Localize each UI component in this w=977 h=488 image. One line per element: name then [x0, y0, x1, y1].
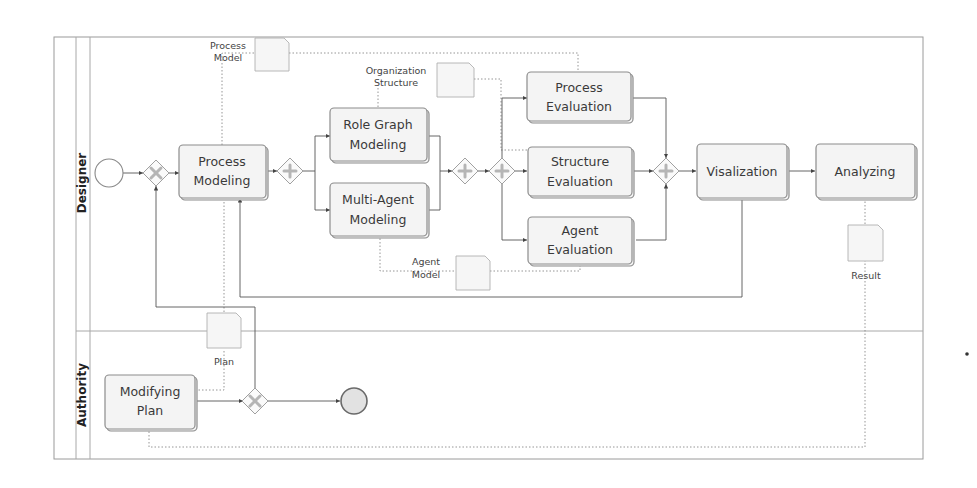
- data-label-line1: Organization: [366, 65, 427, 76]
- task-label-line1: Structure: [551, 154, 609, 169]
- document-icon: [437, 63, 474, 97]
- data-label-line2: Structure: [374, 77, 418, 88]
- task-structure-evaluation[interactable]: Structure Evaluation: [528, 147, 634, 198]
- end-event[interactable]: [341, 388, 367, 414]
- task-label-line1: Process: [198, 154, 245, 169]
- bpmn-diagram: Designer Authority: [0, 0, 977, 488]
- lane-label-authority: Authority: [75, 363, 89, 427]
- stray-dot: [965, 352, 969, 356]
- data-label-line2: Model: [214, 52, 243, 63]
- task-agent-evaluation[interactable]: Agent Evaluation: [528, 217, 634, 266]
- data-label-line2: Model: [412, 269, 441, 280]
- task-visualization[interactable]: Visalization: [697, 144, 789, 200]
- task-label-line1: Role Graph: [343, 117, 412, 132]
- document-icon: [848, 225, 883, 261]
- task-label-line2: Evaluation: [547, 174, 613, 189]
- task-label-line2: Modeling: [350, 212, 407, 227]
- task-label-line1: Multi-Agent: [342, 192, 414, 207]
- document-icon: [207, 313, 241, 348]
- task-label: Visalization: [706, 164, 777, 179]
- task-process-modeling[interactable]: Process Modeling: [179, 145, 268, 200]
- task-modifying-plan[interactable]: Modifying Plan: [105, 375, 197, 431]
- data-label-line1: Process: [210, 40, 246, 51]
- task-process-evaluation[interactable]: Process Evaluation: [527, 72, 633, 123]
- task-label-line2: Evaluation: [547, 242, 613, 257]
- document-icon: [456, 256, 490, 290]
- task-label: Analyzing: [835, 164, 896, 179]
- document-icon: [255, 38, 289, 71]
- task-label-line1: Process: [555, 80, 602, 95]
- data-object-result[interactable]: Result: [848, 225, 883, 281]
- task-label-line1: Modifying: [120, 384, 181, 399]
- task-role-graph-modeling[interactable]: Role Graph Modeling: [330, 108, 429, 163]
- task-label-line1: Agent: [562, 223, 599, 238]
- data-label: Plan: [214, 356, 234, 367]
- task-label-line2: Evaluation: [546, 99, 612, 114]
- task-label-line2: Modeling: [350, 137, 407, 152]
- data-label-line1: Agent: [412, 256, 440, 267]
- lane-label-designer: Designer: [75, 153, 89, 214]
- task-label-line2: Plan: [137, 403, 164, 418]
- start-event[interactable]: [95, 159, 123, 187]
- data-label: Result: [851, 270, 881, 281]
- task-multi-agent-modeling[interactable]: Multi-Agent Modeling: [330, 183, 429, 238]
- task-analyzing[interactable]: Analyzing: [816, 144, 917, 200]
- task-label-line2: Modeling: [194, 173, 251, 188]
